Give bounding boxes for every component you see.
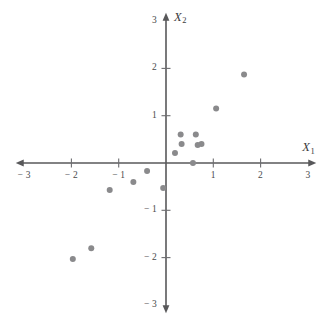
y-tick-label: − 3 (144, 300, 157, 310)
data-point (88, 245, 94, 251)
x-axis-title-subscript: 1 (310, 146, 314, 156)
data-point (190, 160, 196, 166)
y-axis-top-arrowhead (163, 13, 170, 21)
scatter-plot-figure: − 3− 2− 1123− 3− 2− 1123 X1 X2 (0, 0, 330, 319)
y-axis-title-subscript: 2 (182, 15, 186, 25)
y-axis-title: X2 (174, 11, 186, 24)
data-point (107, 187, 113, 193)
y-axis-title-text: X (174, 10, 182, 24)
x-tick-label: − 2 (65, 171, 78, 181)
y-axis-bottom-arrowhead (163, 305, 170, 313)
data-point (213, 106, 219, 112)
x-tick-label: − 3 (18, 171, 31, 181)
data-point (193, 132, 199, 138)
x-axis-right-arrowhead (308, 160, 316, 167)
data-point (70, 256, 76, 262)
data-point (160, 185, 166, 191)
data-point (130, 179, 136, 185)
data-point (241, 72, 247, 78)
x-tick-label: 3 (305, 171, 310, 181)
data-point (144, 168, 150, 174)
plot-canvas (0, 0, 330, 319)
y-tick-label: 1 (152, 111, 157, 121)
data-point-series (70, 72, 247, 262)
y-tick-label: 2 (152, 64, 157, 74)
x-tick-label: 1 (211, 171, 216, 181)
data-point (195, 142, 201, 148)
data-point (178, 132, 184, 138)
x-axis-title: X1 (302, 141, 314, 154)
x-tick-label: 2 (258, 171, 263, 181)
x-axis-left-arrowhead (16, 160, 24, 167)
y-tick-label: − 2 (144, 253, 157, 263)
axes-group (16, 13, 317, 314)
x-axis-title-text: X (302, 140, 310, 154)
data-point (179, 141, 185, 147)
x-tick-label: − 1 (112, 171, 125, 181)
data-point (172, 150, 178, 156)
y-tick-label: 3 (152, 16, 157, 26)
y-tick-label: − 1 (144, 206, 157, 216)
